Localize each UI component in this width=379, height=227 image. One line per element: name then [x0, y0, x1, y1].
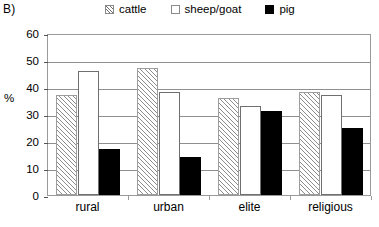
y-axis-title: %	[4, 92, 14, 104]
hatched-square-icon	[105, 5, 114, 14]
legend-item-sheep-goat: sheep/goat	[171, 4, 242, 16]
x-axis-label-urban: urban	[128, 200, 209, 214]
bar-cattle-urban	[137, 68, 158, 195]
bar-pig-rural	[99, 149, 120, 195]
x-axis-label-elite: elite	[209, 200, 290, 214]
bar-cattle-rural	[56, 95, 77, 195]
legend-item-pig: pig	[265, 4, 294, 16]
legend-item-cattle: cattle	[105, 4, 147, 16]
x-axis-tick	[371, 196, 372, 200]
legend-label-pig: pig	[279, 4, 294, 16]
panel-label: B)	[3, 2, 15, 16]
y-axis-tick-label: 60	[13, 29, 39, 39]
legend-label-sheep-goat: sheep/goat	[185, 4, 242, 16]
y-axis-tick-label: 50	[13, 56, 39, 66]
bar-sheep-goat-religious	[321, 95, 342, 195]
y-axis-tick-label: 30	[13, 110, 39, 120]
bar-pig-religious	[342, 128, 363, 196]
y-axis-tick-label: 0	[13, 191, 39, 201]
bar-series-layer	[48, 35, 370, 195]
bar-pig-elite	[261, 111, 282, 195]
y-axis-tick-label: 10	[13, 164, 39, 174]
bar-sheep-goat-elite	[240, 106, 261, 195]
bar-sheep-goat-urban	[159, 92, 180, 195]
plot-area	[47, 34, 371, 196]
bar-chart: B) cattle sheep/goat pig % 0102030405060…	[0, 0, 379, 227]
x-axis-label-religious: religious	[290, 200, 371, 214]
chart-legend: cattle sheep/goat pig	[105, 4, 295, 16]
bar-sheep-goat-rural	[78, 71, 99, 195]
black-square-icon	[265, 5, 274, 14]
y-axis-tick-label: 20	[13, 137, 39, 147]
bar-cattle-religious	[299, 92, 320, 195]
y-axis-tick	[44, 197, 48, 198]
x-axis-category-labels: ruralurbanelitereligious	[47, 200, 371, 220]
bar-pig-urban	[180, 157, 201, 195]
legend-label-cattle: cattle	[119, 4, 147, 16]
bar-cattle-elite	[218, 98, 239, 195]
white-square-icon	[171, 5, 180, 14]
y-axis-tick-label: 40	[13, 83, 39, 93]
x-axis-label-rural: rural	[47, 200, 128, 214]
